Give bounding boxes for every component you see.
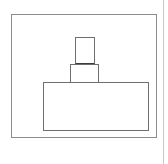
top-rectangle [75, 37, 95, 64]
page-right-border [163, 0, 164, 164]
middle-rectangle [70, 64, 99, 83]
base-rectangle [43, 82, 149, 131]
diagram-canvas [0, 0, 168, 164]
